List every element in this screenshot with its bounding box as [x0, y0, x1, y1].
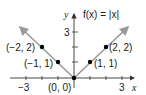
point-0-0 [72, 76, 76, 80]
y-axis-label: y [63, 9, 69, 20]
x-tick-label-neg3: −3 [18, 82, 30, 93]
point-label-0-0: (0, 0) [48, 82, 71, 93]
point-2-2 [104, 45, 108, 49]
y-ticks [72, 32, 78, 62]
point-neg1-1 [56, 60, 60, 64]
point-label-2-2: (2, 2) [109, 42, 132, 53]
point-neg2-2 [40, 45, 44, 49]
point-label-1-1: (1, 1) [94, 58, 117, 69]
point-1-1 [88, 60, 92, 64]
y-tick-label-3: 3 [64, 27, 70, 38]
point-label-neg2-2: (−2, 2) [6, 42, 35, 53]
x-axis-label: x [131, 82, 137, 93]
absolute-value-graph: y f(x) = |x| 3 (−2, 2) (−1, 1) (2, 2) (1… [0, 0, 146, 95]
point-label-neg1-1: (−1, 1) [24, 58, 53, 69]
function-label: f(x) = |x| [83, 9, 119, 20]
x-tick-label-3: 3 [119, 82, 125, 93]
